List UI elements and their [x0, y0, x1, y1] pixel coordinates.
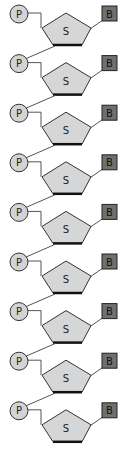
nucleotide-unit: PSB	[10, 244, 117, 293]
phosphate-sugar-link	[28, 13, 41, 28]
backbone-link	[26, 294, 55, 307]
phosphate-label: P	[16, 405, 22, 416]
base-label: B	[106, 58, 113, 69]
sugar-label: S	[63, 125, 69, 136]
sugar-node: S	[42, 360, 91, 392]
sugar-base-link	[90, 169, 103, 178]
phosphate-node: P	[10, 154, 28, 172]
phosphate-node: P	[10, 5, 28, 23]
nucleotide-unit: PSB	[10, 96, 117, 145]
nucleotide-unit: PSB	[10, 195, 117, 244]
phosphate-node: P	[10, 55, 28, 73]
phosphate-sugar-link	[28, 311, 41, 326]
base-label: B	[106, 405, 113, 416]
phosphate-sugar-link	[28, 112, 41, 127]
phosphate-sugar-link	[28, 410, 41, 425]
nucleotide-unit: PSB	[10, 294, 117, 343]
backbone-link	[26, 344, 55, 357]
nucleotide-unit: PSB	[10, 145, 117, 194]
sugar-base-link	[90, 367, 103, 376]
phosphate-label: P	[16, 207, 22, 218]
sugar-node: S	[42, 261, 91, 293]
backbone-link	[26, 393, 55, 406]
nucleotide-unit: PSB	[10, 46, 117, 95]
phosphate-sugar-link	[28, 360, 41, 375]
sugar-label: S	[63, 26, 69, 37]
sugar-node: S	[42, 63, 91, 95]
backbone-link	[26, 244, 55, 257]
sugar-base-link	[90, 417, 103, 426]
phosphate-label: P	[16, 356, 22, 367]
sugar-node: S	[42, 410, 91, 442]
base-node: B	[102, 155, 117, 170]
base-node: B	[102, 353, 117, 368]
phosphate-label: P	[16, 108, 22, 119]
base-label: B	[106, 207, 113, 218]
phosphate-sugar-link	[28, 63, 41, 78]
base-node: B	[102, 56, 117, 71]
sugar-label: S	[63, 76, 69, 87]
sugar-label: S	[63, 324, 69, 335]
base-node: B	[102, 403, 117, 418]
phosphate-sugar-link	[28, 162, 41, 177]
base-label: B	[106, 108, 113, 119]
sugar-node: S	[42, 311, 91, 343]
phosphate-node: P	[10, 253, 28, 271]
sugar-label: S	[63, 224, 69, 235]
backbone-link	[26, 46, 55, 59]
base-label: B	[106, 306, 113, 317]
base-node: B	[102, 6, 117, 21]
sugar-label: S	[63, 274, 69, 285]
base-node: B	[102, 304, 117, 319]
backbone-link	[26, 145, 55, 158]
sugar-label: S	[63, 423, 69, 434]
sugar-node: S	[42, 13, 91, 45]
base-node: B	[102, 105, 117, 120]
dna-strand-diagram: PSBPSBPSBPSBPSBPSBPSBPSBPSB	[0, 0, 120, 452]
sugar-base-link	[90, 318, 103, 327]
sugar-node: S	[42, 162, 91, 194]
phosphate-sugar-link	[28, 211, 41, 226]
nucleotide-unit: PSB	[10, 393, 117, 442]
sugar-label: S	[63, 175, 69, 186]
sugar-base-link	[90, 70, 103, 79]
nucleotide-unit: PSB	[10, 344, 117, 393]
nucleotide-unit: PSB	[10, 5, 117, 45]
phosphate-label: P	[16, 157, 22, 168]
phosphate-label: P	[16, 9, 22, 20]
sugar-base-link	[90, 20, 103, 29]
phosphate-node: P	[10, 104, 28, 122]
base-node: B	[102, 204, 117, 219]
phosphate-node: P	[10, 352, 28, 370]
sugar-base-link	[90, 268, 103, 277]
base-label: B	[106, 157, 113, 168]
sugar-node: S	[42, 112, 91, 144]
base-label: B	[106, 356, 113, 367]
sugar-node: S	[42, 211, 91, 243]
phosphate-sugar-link	[28, 261, 41, 276]
sugar-label: S	[63, 373, 69, 384]
base-label: B	[106, 9, 113, 20]
sugar-base-link	[90, 218, 103, 227]
phosphate-node: P	[10, 402, 28, 420]
backbone-link	[26, 195, 55, 208]
phosphate-label: P	[16, 306, 22, 317]
phosphate-label: P	[16, 257, 22, 268]
phosphate-label: P	[16, 58, 22, 69]
phosphate-node: P	[10, 203, 28, 221]
sugar-base-link	[90, 119, 103, 128]
base-label: B	[106, 257, 113, 268]
backbone-link	[26, 96, 55, 109]
phosphate-node: P	[10, 303, 28, 321]
base-node: B	[102, 254, 117, 269]
